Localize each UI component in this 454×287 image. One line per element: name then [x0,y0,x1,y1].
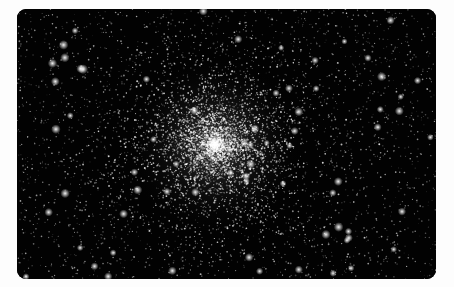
star-cluster-photo: Globular star cluster against a black sk… [17,9,436,279]
star-field-canvas [17,9,436,279]
